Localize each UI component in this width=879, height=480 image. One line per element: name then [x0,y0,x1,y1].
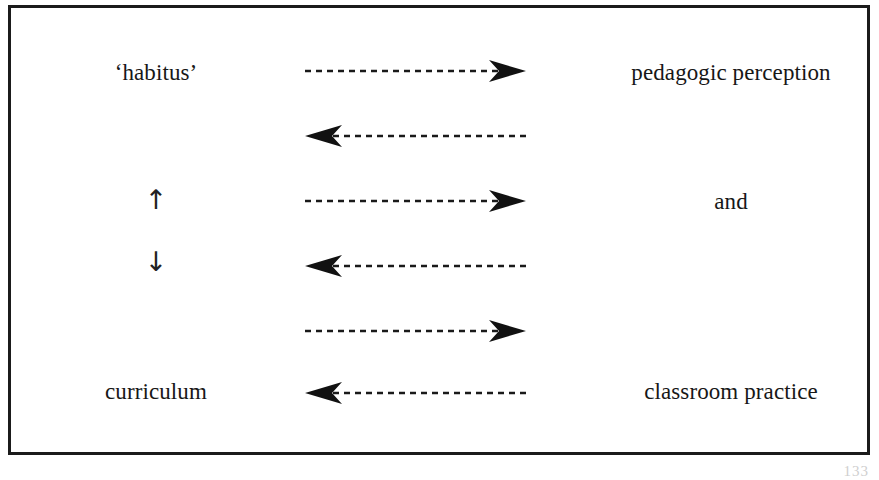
connector-arrow-left-4 [303,251,528,281]
up-arrow-icon: ↑ [31,186,281,213]
connector-arrow-right-5 [303,316,528,346]
label-pedagogic-perception: pedagogic perception [596,61,866,84]
connector-arrow-right-3 [303,186,528,216]
page-number: 133 [844,463,870,480]
diagram-frame: ‘habitus’ ↑ ↓ curriculum pedagogic perce… [8,5,870,455]
connector-arrow-left-6 [303,378,528,408]
page-canvas: ‘habitus’ ↑ ↓ curriculum pedagogic perce… [0,0,879,480]
label-and: and [596,190,866,213]
down-arrow-icon: ↓ [31,248,281,275]
connector-arrow-right-1 [303,56,528,86]
label-curriculum: curriculum [31,380,281,403]
label-habitus: ‘habitus’ [31,61,281,84]
connector-arrow-left-2 [303,121,528,151]
label-classroom-practice: classroom practice [596,380,866,403]
